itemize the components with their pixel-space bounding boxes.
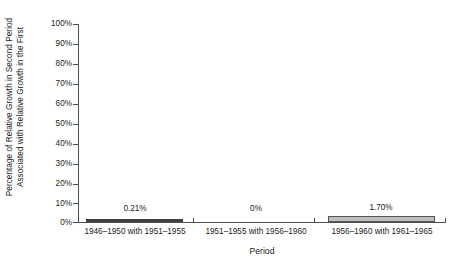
y-tick-label: 30% bbox=[38, 159, 72, 169]
y-axis-tick bbox=[73, 24, 78, 25]
bar-chart: Percentage of Relative Growth in Second … bbox=[0, 0, 464, 267]
y-axis-title-line-2: Associated with Relative Growth in the F… bbox=[16, 0, 27, 219]
y-axis-title-line-1: Percentage of Relative Growth in Second … bbox=[5, 0, 16, 219]
bar-1956-1960-with-1961-1965 bbox=[328, 216, 435, 222]
y-tick-label: 0% bbox=[38, 218, 72, 228]
y-axis-tick bbox=[73, 44, 78, 45]
value-label-1: 0.21% bbox=[94, 204, 176, 214]
x-axis-tick bbox=[445, 218, 446, 223]
y-tick-label: 80% bbox=[38, 59, 72, 69]
y-tick-label: 20% bbox=[38, 179, 72, 189]
y-tick-label: 40% bbox=[38, 139, 72, 149]
value-label-3: 1.70% bbox=[340, 203, 422, 213]
y-axis-tick bbox=[73, 164, 78, 165]
x-category-label-2: 1951–1955 with 1956–1960 bbox=[196, 226, 316, 237]
y-axis-tick bbox=[73, 84, 78, 85]
y-tick-label: 50% bbox=[38, 119, 72, 129]
x-axis-tick bbox=[314, 218, 315, 223]
y-tick-label: 60% bbox=[38, 99, 72, 109]
y-tick-label: 70% bbox=[38, 79, 72, 89]
y-axis-tick bbox=[73, 124, 78, 125]
x-axis-title: Period bbox=[78, 246, 446, 257]
value-label-2: 0% bbox=[215, 204, 297, 214]
y-axis-line bbox=[78, 24, 79, 223]
bar-1946-1950-with-1951-1955 bbox=[86, 219, 183, 222]
x-axis-line bbox=[78, 222, 446, 223]
y-axis-tick bbox=[73, 144, 78, 145]
y-axis-tick bbox=[73, 222, 78, 223]
y-axis-tick-labels: 100% 90% 80% 70% 60% 50% 40% 30% 20% 10%… bbox=[38, 18, 72, 228]
y-tick-label: 10% bbox=[38, 199, 72, 209]
x-category-label-1: 1946–1950 with 1951–1955 bbox=[75, 226, 195, 237]
y-axis-tick bbox=[73, 184, 78, 185]
x-axis-tick bbox=[193, 218, 194, 223]
y-axis-title: Percentage of Relative Growth in Second … bbox=[5, 0, 35, 219]
x-category-label-3: 1956–1960 with 1961–1965 bbox=[320, 226, 444, 237]
y-tick-label: 100% bbox=[38, 19, 72, 29]
y-tick-label: 90% bbox=[38, 39, 72, 49]
y-axis-tick bbox=[73, 104, 78, 105]
y-axis-tick bbox=[73, 203, 78, 204]
y-axis-tick bbox=[73, 64, 78, 65]
